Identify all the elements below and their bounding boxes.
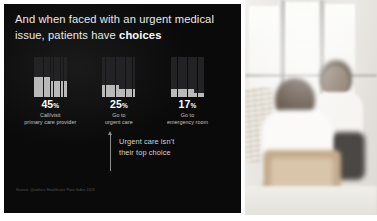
slide-canvas: And when faced with an urgent medical is… bbox=[0, 0, 377, 221]
headline-emphasis: choices bbox=[119, 29, 161, 41]
metric-desc-line2-1: urgent care bbox=[85, 119, 154, 126]
metric-percent-value-2: 17 bbox=[179, 98, 191, 110]
waffle-cell-empty bbox=[64, 57, 67, 61]
waffle-cell-empty bbox=[64, 77, 67, 81]
waffle-cell-empty bbox=[133, 77, 136, 81]
metric-desc-line2-2: emergency room bbox=[153, 119, 222, 126]
up-arrow-icon bbox=[108, 131, 113, 171]
waffle-cell-empty bbox=[133, 73, 136, 77]
waffle-cell-empty bbox=[133, 61, 136, 65]
waffle-cell-empty bbox=[133, 69, 136, 73]
metric-percent-value-1: 25 bbox=[110, 98, 122, 110]
annotation-text: Urgent care isn't their top choice bbox=[119, 131, 174, 158]
page-title: And when faced with an urgent medical is… bbox=[15, 11, 220, 43]
waffle-cell-empty bbox=[201, 57, 204, 61]
waffle-cell-filled bbox=[64, 81, 67, 85]
callout-annotation: Urgent care isn't their top choice bbox=[108, 131, 174, 171]
headline-text: And when faced with an urgent medical is… bbox=[15, 13, 214, 41]
waffle-cell-filled bbox=[64, 89, 67, 93]
metric-desc-2: Go to emergency room bbox=[153, 112, 222, 125]
metric-percent-2: 17% bbox=[153, 99, 222, 111]
waffle-cell-filled bbox=[64, 85, 67, 89]
waffle-cell-filled bbox=[201, 93, 204, 97]
metric-percent-1: 25% bbox=[85, 99, 154, 111]
metric-desc-line2-0: primary care provider bbox=[16, 119, 85, 126]
bottom-edge-strip bbox=[0, 215, 377, 221]
waffle-grid-2 bbox=[171, 57, 204, 97]
metric-label-1: 25% Go to urgent care bbox=[85, 99, 154, 125]
waffle-cell-empty bbox=[201, 85, 204, 89]
waffle-cell-empty bbox=[64, 73, 67, 77]
metric-desc-1: Go to urgent care bbox=[85, 112, 154, 125]
metric-label-group: 45% Call/visit primary care provider 25%… bbox=[16, 99, 222, 125]
waffle-cell-filled bbox=[64, 93, 67, 97]
annotation-line1: Urgent care isn't bbox=[119, 137, 174, 148]
waffle-cell-empty bbox=[133, 81, 136, 85]
waffle-cell-empty bbox=[133, 57, 136, 61]
metric-percent-value-0: 45 bbox=[41, 98, 53, 110]
waffle-cell-empty bbox=[133, 65, 136, 69]
waffle-cell-empty bbox=[64, 69, 67, 73]
metric-desc-line1-2: Go to bbox=[153, 112, 222, 119]
waffle-cell-empty bbox=[201, 77, 204, 81]
percent-symbol-2: % bbox=[190, 102, 196, 109]
waffle-cell-empty bbox=[64, 61, 67, 65]
waffle-cell-filled bbox=[133, 89, 136, 93]
waffle-cell-empty bbox=[201, 89, 204, 93]
waffle-cell-empty bbox=[201, 81, 204, 85]
photo-panel bbox=[245, 0, 377, 215]
waffle-cell-empty bbox=[201, 65, 204, 69]
waffle-grid-0 bbox=[34, 57, 67, 97]
source-citation: Source: Qualtrics Healthcare Pass Index … bbox=[16, 188, 95, 193]
waffle-cell-empty bbox=[201, 73, 204, 77]
metric-desc-line1-1: Go to bbox=[85, 112, 154, 119]
metric-label-0: 45% Call/visit primary care provider bbox=[16, 99, 85, 125]
percent-symbol-1: % bbox=[122, 102, 128, 109]
waffle-cell-filled bbox=[133, 93, 136, 97]
waffle-cell-empty bbox=[133, 85, 136, 89]
percent-symbol-0: % bbox=[53, 102, 59, 109]
waffle-cell-empty bbox=[64, 65, 67, 69]
metric-desc-line1-0: Call/visit bbox=[16, 112, 85, 119]
metric-label-2: 17% Go to emergency room bbox=[153, 99, 222, 125]
waffle-cell-empty bbox=[201, 69, 204, 73]
metric-percent-0: 45% bbox=[16, 99, 85, 111]
waffle-grid-1 bbox=[102, 57, 135, 97]
metric-desc-0: Call/visit primary care provider bbox=[16, 112, 85, 125]
annotation-line2: their top choice bbox=[119, 148, 174, 159]
waffle-cell-empty bbox=[201, 61, 204, 65]
